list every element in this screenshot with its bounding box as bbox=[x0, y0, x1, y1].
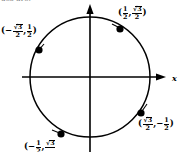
fraction-one-half: 12 bbox=[27, 24, 32, 39]
radical-root3: √3 bbox=[45, 140, 55, 148]
minus-sign: − bbox=[156, 118, 163, 128]
x-axis-arrow-icon bbox=[156, 73, 166, 80]
paren-open: ( bbox=[138, 118, 142, 128]
radical-root3: √3 bbox=[132, 6, 142, 14]
y-axis-arrow-icon bbox=[86, 4, 93, 14]
paren-open: ( bbox=[118, 7, 122, 17]
fraction-root3-over-2: √32 bbox=[143, 117, 153, 132]
fraction-root3-over-2: √32 bbox=[13, 24, 23, 39]
paren-close: ) bbox=[33, 25, 37, 35]
minus-sign: − bbox=[5, 25, 12, 35]
point-label-240-deg: (−12,√3 bbox=[24, 140, 56, 152]
point-label-60-deg: (12,√32) bbox=[118, 6, 147, 21]
fraction-one-half: 12 bbox=[36, 140, 41, 152]
fraction-one-half: 12 bbox=[164, 117, 169, 132]
x-axis-label: x bbox=[172, 73, 177, 83]
paren-close: ) bbox=[170, 118, 174, 128]
minus-sign: − bbox=[28, 141, 35, 151]
radical-root3: √3 bbox=[13, 24, 23, 32]
fraction-root3-over-2: √32 bbox=[132, 6, 142, 21]
point-label-150-deg: (−√32,12) bbox=[1, 24, 37, 39]
paren-close: ) bbox=[143, 7, 147, 17]
point-label-330-deg: (√32,−12) bbox=[138, 117, 174, 132]
radical-root3: √3 bbox=[143, 117, 153, 125]
fraction-root3-partial: √3 bbox=[45, 140, 55, 152]
unit-circle-figure: ues are: x (12,√32) (−√32,12) (√32,−12) … bbox=[0, 0, 184, 152]
